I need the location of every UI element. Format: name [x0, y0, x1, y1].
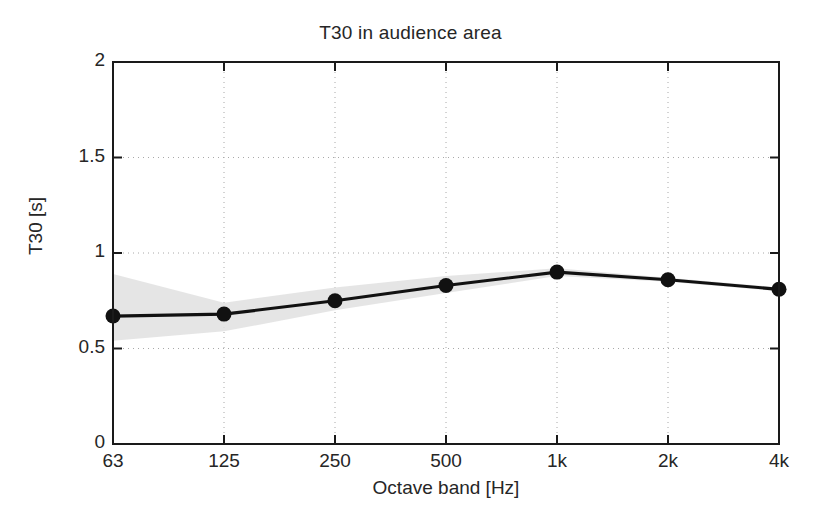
y-tick-label: 0 — [45, 431, 105, 453]
x-tick-label: 4k — [744, 450, 814, 472]
x-tick-label: 500 — [411, 450, 481, 472]
x-tick-label: 2k — [633, 450, 703, 472]
plot-area — [0, 0, 821, 519]
y-tick-label: 1 — [45, 240, 105, 262]
grid-lines — [113, 62, 779, 444]
chart-figure: T30 in audience area T30 [s] Octave band… — [0, 0, 821, 519]
y-tick-label: 0.5 — [45, 336, 105, 358]
x-tick-label: 125 — [189, 450, 259, 472]
x-tick-label: 250 — [300, 450, 370, 472]
x-tick-label: 63 — [78, 450, 148, 472]
y-tick-label: 2 — [45, 49, 105, 71]
y-tick-label: 1.5 — [45, 145, 105, 167]
x-tick-label: 1k — [522, 450, 592, 472]
